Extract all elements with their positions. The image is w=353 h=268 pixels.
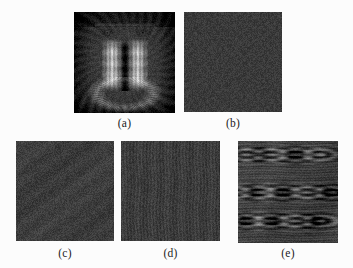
- noise-field-canvas-c: [16, 141, 114, 241]
- panel-image-d: [121, 141, 220, 241]
- panel-image-e: [238, 141, 338, 243]
- noise-field-canvas-d: [121, 141, 220, 241]
- panel-caption-d: (d): [121, 247, 220, 260]
- panel-caption-b: (b): [184, 117, 282, 130]
- panel-image-a: [74, 12, 175, 113]
- panel-caption-c: (c): [16, 247, 114, 260]
- figure-panel-grid: (a) (b) (c) (d) (e): [0, 0, 353, 268]
- panel-image-c: [16, 141, 114, 241]
- panel-image-b: [184, 12, 282, 112]
- mandrill-image-canvas: [74, 12, 175, 113]
- panel-caption-e: (e): [238, 247, 338, 260]
- noise-field-canvas-b: [184, 12, 282, 112]
- interference-pattern-canvas-e: [238, 141, 338, 243]
- panel-caption-a: (a): [74, 117, 175, 130]
